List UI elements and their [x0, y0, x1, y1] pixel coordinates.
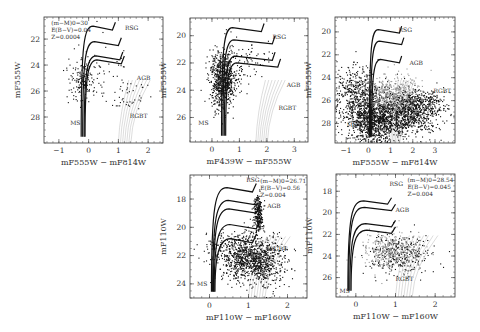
- x-axis-label: mF555W − mF814W: [61, 158, 147, 167]
- x-axis-label: mF110W − mF160W: [206, 313, 292, 322]
- cmd-panel-5: 0121820222426mF110W − mF160WmF110WRSGAGB…: [300, 170, 461, 325]
- region-label-ms: MS: [347, 121, 357, 128]
- region-label-rsg: RSG: [399, 26, 413, 33]
- y-tick-label: 24: [321, 73, 331, 82]
- x-axis-label: mF110W − mF160W: [353, 312, 439, 321]
- region-label-agb: AGB: [408, 59, 423, 66]
- x-tick-label: 2: [285, 301, 290, 310]
- x-tick-label: 0: [210, 145, 215, 154]
- plot-area: [194, 183, 296, 298]
- y-tick-label: 26: [176, 113, 186, 122]
- x-axis-label: mF555W − mF814W: [352, 158, 438, 167]
- region-label-rgbt: RGBT: [396, 275, 414, 282]
- region-label-rgbt: RGBT: [130, 112, 148, 119]
- y-tick-label: 26: [322, 273, 332, 282]
- parameter-annotation: (m−M)0=30: [51, 20, 88, 26]
- x-tick-label: −1: [53, 146, 64, 155]
- region-label-rsg: RSG: [125, 24, 139, 31]
- x-tick-label: 2: [146, 146, 151, 155]
- y-tick-label: 18: [322, 187, 332, 196]
- y-tick-label: 24: [176, 279, 186, 288]
- y-axis-label: mF110W: [159, 217, 168, 254]
- plot-area: [201, 23, 286, 142]
- y-tick-label: 28: [30, 113, 40, 122]
- x-tick-label: 0: [207, 301, 212, 310]
- y-axis-label: mF555W: [159, 61, 168, 98]
- region-label-agb: AGB: [395, 206, 410, 213]
- parameter-annotation: E(B−V)=0.56: [260, 185, 300, 191]
- x-tick-label: 1: [246, 301, 251, 310]
- y-tick-label: 22: [176, 251, 186, 260]
- x-tick-label: 0: [86, 146, 91, 155]
- y-tick-label: 18: [176, 195, 186, 204]
- y-tick-label: 26: [321, 96, 331, 105]
- y-tick-label: 28: [321, 119, 331, 128]
- parameter-annotation: E(B−V)=0.04: [51, 27, 91, 33]
- y-tick-label: 24: [30, 61, 40, 70]
- region-label-ms: MS: [198, 119, 208, 126]
- y-tick-label: 20: [176, 223, 186, 232]
- isochrone-track: [84, 52, 123, 137]
- region-label-ms: MS: [340, 287, 350, 294]
- cmd-panel-4: 01218202224mF110W − mF160WmF110WRSGAGBMS…: [154, 171, 313, 326]
- region-label-agb: AGB: [266, 202, 281, 209]
- y-tick-label: 20: [176, 31, 186, 40]
- cmd-panel-2: 012320222426mF439W − mF555WmF555WRSGAGBM…: [154, 14, 314, 170]
- y-tick-label: 24: [322, 252, 332, 261]
- isochrone-track: [85, 56, 124, 137]
- parameter-annotation: (m−M)0=28.54: [407, 177, 453, 183]
- x-tick-label: 0: [353, 300, 358, 309]
- cmd-panel-1: −101222242628mF555W − mF814WmF555WRSGAGB…: [8, 13, 169, 171]
- x-tick-label: 3: [292, 145, 297, 154]
- y-axis-label: mF110W: [305, 216, 314, 253]
- x-tick-label: 2: [433, 300, 438, 309]
- region-label-ms: MS: [197, 280, 207, 287]
- region-label-rsg: RSG: [390, 180, 404, 187]
- x-tick-label: 1: [116, 146, 121, 155]
- parameter-annotation: Z=0.004: [260, 192, 286, 198]
- x-tick-label: 3: [433, 146, 438, 155]
- parameter-annotation: Z=0.004: [407, 191, 433, 197]
- parameter-annotation: Z=0.0004: [51, 34, 80, 40]
- isochrone-track: [226, 59, 281, 136]
- x-tick-label: 1: [237, 145, 242, 154]
- x-tick-label: 2: [264, 145, 269, 154]
- y-tick-label: 22: [30, 35, 40, 44]
- region-label-rgbt: RGBT: [433, 87, 451, 94]
- x-tick-label: 1: [393, 300, 398, 309]
- region-label-rsg: RSG: [273, 33, 287, 40]
- y-axis-label: mF555W: [304, 61, 313, 98]
- cmd-panel-3: −101232022242628mF555W − mF814WmF555WRSG…: [299, 13, 461, 171]
- region-label-rgbt: RGBT: [279, 104, 297, 111]
- x-tick-label: −1: [341, 146, 352, 155]
- y-tick-label: 22: [176, 58, 186, 67]
- y-tick-label: 20: [321, 27, 331, 36]
- x-tick-label: 2: [410, 146, 415, 155]
- x-tick-label: 0: [366, 146, 371, 155]
- x-axis-label: mF439W − mF555W: [206, 157, 292, 166]
- region-label-rsg: RSG: [246, 176, 260, 183]
- x-tick-label: 1: [388, 146, 393, 155]
- y-tick-label: 22: [321, 50, 331, 59]
- y-tick-label: 24: [176, 86, 186, 95]
- y-axis-label: mF555W: [13, 61, 22, 98]
- region-label-rgbt: RGBT: [270, 245, 288, 252]
- y-tick-label: 20: [322, 208, 332, 217]
- y-tick-label: 22: [322, 230, 332, 239]
- parameter-annotation: E(B−V)=0.045: [407, 184, 451, 190]
- region-label-agb: AGB: [136, 74, 151, 81]
- region-label-ms: MS: [70, 119, 80, 126]
- y-tick-label: 26: [30, 87, 40, 96]
